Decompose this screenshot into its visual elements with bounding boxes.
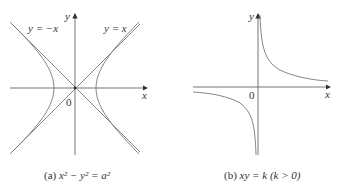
panel-a-y-label: y <box>64 10 70 22</box>
panel-b-hyperbola-third-quadrant <box>193 92 256 155</box>
panel-a-asymptote-left-label: y = −x <box>27 22 58 34</box>
panel-a-origin-label: 0 <box>66 96 72 108</box>
panel-b-origin-label: 0 <box>249 89 255 101</box>
panel-a-caption-prefix: (a) <box>44 169 56 181</box>
panel-b-graph: y x 0 <box>193 10 330 155</box>
panel-a-asymptote-right-label: y = x <box>103 22 127 34</box>
figure-canvas: y x 0 y = −x y = x y x 0 <box>0 0 343 192</box>
panel-b-y-label: y <box>248 10 254 22</box>
panel-a-x-label: x <box>141 89 147 101</box>
panel-a-graph: y x 0 y = −x y = x <box>10 10 147 155</box>
panel-b-caption-equation: xy = k (k > 0) <box>240 169 301 181</box>
panel-b-hyperbola-first-quadrant <box>260 15 328 81</box>
panel-a-caption-equation: x² − y² = a² <box>59 169 110 181</box>
panel-b-x-label: x <box>324 88 330 100</box>
panel-a-caption: (a) x² − y² = a² <box>44 169 110 181</box>
panel-b-caption-prefix: (b) <box>224 169 237 181</box>
panel-b-caption: (b) xy = k (k > 0) <box>224 169 301 181</box>
